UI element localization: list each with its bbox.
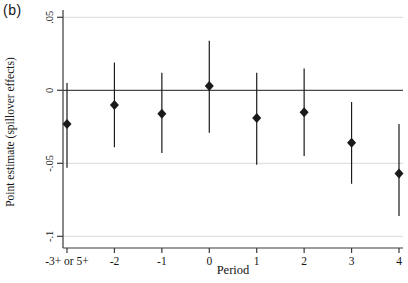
x-axis-label: Period (63, 263, 403, 278)
y-tick-label: .05 (44, 11, 55, 24)
y-tick-label: -.1 (44, 231, 55, 242)
data-point-marker (205, 81, 214, 91)
data-point-marker (157, 109, 166, 119)
chart-svg: .050-.05-.1-3+ or 5+-2-101234 (0, 0, 408, 283)
y-axis-label: Point estimate (spillover effects) (2, 0, 18, 267)
data-point-marker (110, 100, 119, 110)
data-point-marker (252, 113, 261, 123)
y-tick-label: 0 (44, 88, 55, 93)
y-tick-label: -.05 (44, 155, 55, 172)
data-point-marker (63, 119, 72, 129)
data-point-marker (300, 107, 309, 117)
data-point-marker (347, 138, 356, 148)
figure-panel-b: (b) .050-.05-.1-3+ or 5+-2-101234 Point … (0, 0, 408, 283)
data-point-marker (395, 169, 404, 179)
